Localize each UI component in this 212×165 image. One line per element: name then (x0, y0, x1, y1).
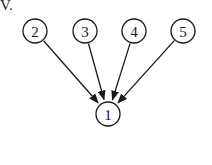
node-5: 5 (171, 19, 195, 43)
diagram-canvas: 23451 (0, 0, 212, 165)
edges (44, 41, 175, 103)
node-label: 5 (179, 24, 187, 40)
edge-5-to-1 (118, 41, 174, 103)
node-3: 3 (73, 19, 97, 43)
node-label: 3 (81, 24, 89, 40)
node-label: 1 (104, 107, 112, 123)
node-2: 2 (23, 19, 47, 43)
node-label: 2 (31, 24, 39, 40)
node-1: 1 (96, 102, 120, 126)
edge-4-to-1 (112, 43, 130, 99)
node-label: 4 (130, 24, 138, 40)
node-4: 4 (122, 19, 146, 43)
nodes: 23451 (23, 19, 195, 126)
edge-3-to-1 (88, 44, 104, 100)
